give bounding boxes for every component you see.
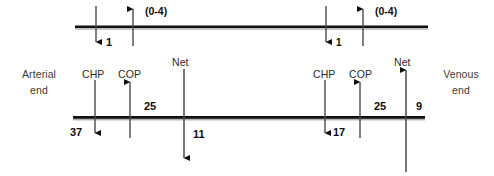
bottom-right-chp-value: 17	[333, 126, 345, 138]
venous-end-label-line2: end	[432, 84, 490, 96]
top-right-down-value: 1	[336, 37, 342, 48]
bottom-left-net-label: Net	[172, 56, 189, 68]
arterial-end-label-line1: Arterial	[8, 68, 70, 80]
bottom-right-net-label: Net	[394, 56, 411, 68]
bottom-left-cop-value: 25	[144, 100, 156, 112]
bottom-right-cop-value: 25	[374, 100, 386, 112]
diagram-canvas: Arterial end Venous end 1 (0-4) 1 (0-4) …	[0, 0, 494, 176]
diagram-vector-layer	[0, 0, 494, 176]
top-vessel-line	[75, 26, 428, 30]
venous-end-label-line1: Venous	[432, 68, 490, 80]
top-left-down-value: 1	[106, 36, 112, 48]
bottom-left-chp-label: CHP	[82, 68, 104, 80]
top-right-up-value: (0-4)	[375, 5, 397, 17]
arterial-end-label-line2: end	[8, 84, 70, 96]
bottom-left-cop-label: COP	[118, 68, 141, 80]
bottom-right-chp-label: CHP	[313, 68, 335, 80]
bottom-right-cop-label: COP	[349, 68, 372, 80]
bottom-right-net-value: 9	[416, 100, 422, 112]
bottom-left-chp-value: 37	[70, 126, 82, 138]
top-left-up-value: (0-4)	[145, 5, 167, 17]
bottom-vessel-line	[73, 116, 425, 120]
bottom-left-net-value: 11	[193, 128, 205, 140]
